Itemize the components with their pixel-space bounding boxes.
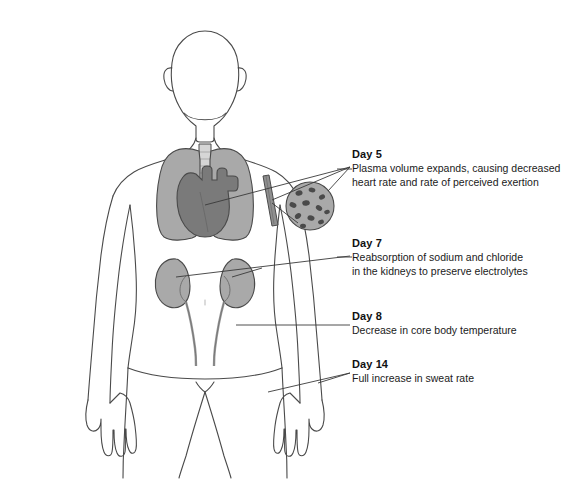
callout-day-5: Day 5 Plasma volume expands, causing dec… — [352, 147, 588, 189]
callout-day-8-heading: Day 8 — [352, 309, 588, 323]
callout-day-14: Day 14 Full increase in sweat rate — [352, 357, 588, 386]
callout-day-5-line2: heart rate and rate of perceived exertio… — [352, 176, 588, 190]
anatomy-diagram: Day 5 Plasma volume expands, causing dec… — [0, 0, 588, 492]
callout-day-5-heading: Day 5 — [352, 147, 588, 161]
callout-day-8-line1: Decrease in core body temperature — [352, 324, 588, 338]
callout-day-14-line1: Full increase in sweat rate — [352, 372, 588, 386]
callout-labels-layer: Day 5 Plasma volume expands, causing dec… — [0, 0, 588, 492]
callout-day-14-heading: Day 14 — [352, 357, 588, 371]
callout-day-7-line1: Reabsorption of sodium and chloride — [352, 251, 588, 265]
callout-day-8: Day 8 Decrease in core body temperature — [352, 309, 588, 338]
callout-day-7-line2: in the kidneys to preserve electrolytes — [352, 265, 588, 279]
callout-day-5-line1: Plasma volume expands, causing decreased — [352, 162, 588, 176]
callout-day-7: Day 7 Reabsorption of sodium and chlorid… — [352, 236, 588, 278]
callout-day-7-heading: Day 7 — [352, 236, 588, 250]
